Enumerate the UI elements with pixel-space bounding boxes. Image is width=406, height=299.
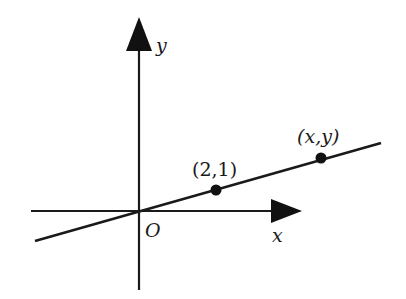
x-axis-arrow-icon [271, 199, 302, 223]
y-axis-arrow-icon [126, 17, 152, 51]
point-2-1 [211, 185, 222, 196]
origin-label: O [145, 219, 161, 241]
y-axis-label: y [155, 34, 167, 56]
coordinate-diagram: y x O (2,1) (x,y) [0, 0, 406, 299]
point-2-1-label: (2,1) [192, 158, 237, 180]
point-x-y [316, 153, 327, 164]
point-x-y-label: (x,y) [297, 125, 339, 147]
x-axis-label: x [272, 224, 283, 246]
